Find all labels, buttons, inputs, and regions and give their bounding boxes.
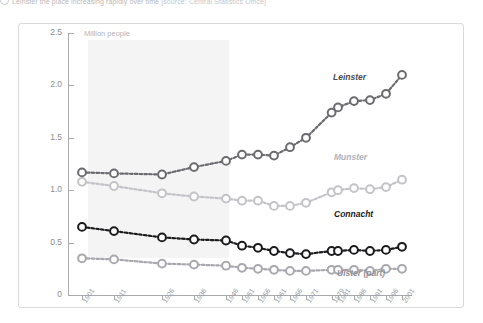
data-point-marker: [254, 151, 262, 159]
data-point-marker: [302, 250, 310, 258]
data-point-marker: [254, 265, 262, 273]
data-point-marker: [286, 202, 294, 210]
series-group: [0, 0, 483, 323]
data-point-marker: [158, 260, 166, 268]
data-point-marker: [222, 262, 230, 270]
data-point-marker: [238, 151, 246, 159]
data-point-marker: [350, 184, 358, 192]
data-point-marker: [222, 195, 230, 203]
series-connacht: [78, 223, 406, 258]
data-point-marker: [110, 227, 118, 235]
data-point-marker: [286, 249, 294, 257]
data-point-marker: [302, 199, 310, 207]
data-point-marker: [270, 247, 278, 255]
data-point-marker: [110, 170, 118, 178]
data-point-marker: [366, 247, 374, 255]
data-point-marker: [350, 246, 358, 254]
data-point-marker: [190, 163, 198, 171]
series-label-leinster: Leinster: [333, 72, 366, 82]
data-point-marker: [334, 186, 342, 194]
data-point-marker: [78, 223, 86, 231]
data-point-marker: [382, 183, 390, 191]
data-point-marker: [270, 202, 278, 210]
series-label-munster: Munster: [334, 152, 367, 162]
data-point-marker: [190, 193, 198, 201]
series-label-ulster: Ulster (part): [337, 268, 385, 278]
data-point-marker: [78, 178, 86, 186]
data-point-marker: [78, 254, 86, 262]
data-point-marker: [238, 242, 246, 250]
data-point-marker: [334, 104, 342, 112]
data-point-marker: [366, 185, 374, 193]
data-point-marker: [238, 264, 246, 272]
data-point-marker: [158, 189, 166, 197]
data-point-marker: [286, 267, 294, 275]
series-label-ulster-name: Ulster: [337, 268, 361, 278]
data-point-marker: [158, 234, 166, 242]
data-point-marker: [366, 96, 374, 104]
data-point-marker: [270, 266, 278, 274]
data-point-marker: [78, 169, 86, 177]
series-munster: [78, 176, 406, 210]
data-point-marker: [190, 261, 198, 269]
data-point-marker: [222, 157, 230, 165]
data-point-marker: [382, 90, 390, 98]
data-point-marker: [350, 97, 358, 105]
series-leinster: [78, 71, 406, 178]
data-point-marker: [254, 197, 262, 205]
data-point-marker: [286, 143, 294, 151]
data-point-marker: [398, 265, 406, 273]
series-label-connacht: Connacht: [334, 209, 373, 219]
data-point-marker: [302, 267, 310, 275]
data-point-marker: [398, 176, 406, 184]
data-point-marker: [270, 152, 278, 160]
data-point-marker: [222, 237, 230, 245]
line-chart: Million people 00.51.01.52.02.5190119111…: [0, 0, 483, 323]
data-point-marker: [398, 71, 406, 79]
data-point-marker: [110, 256, 118, 264]
data-point-marker: [254, 244, 262, 252]
data-point-marker: [398, 243, 406, 251]
data-point-marker: [302, 134, 310, 142]
data-point-marker: [190, 236, 198, 244]
data-point-marker: [334, 247, 342, 255]
data-point-marker: [238, 197, 246, 205]
data-point-marker: [382, 246, 390, 254]
series-label-ulster-qualifier: (part): [363, 268, 385, 278]
data-point-marker: [110, 182, 118, 190]
data-point-marker: [158, 171, 166, 179]
